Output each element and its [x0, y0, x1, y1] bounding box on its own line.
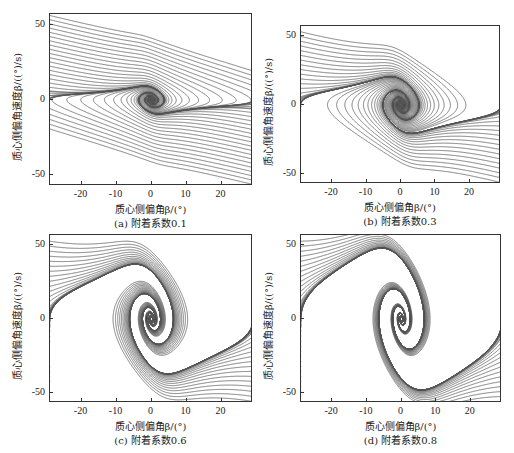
- x-tick-label: 0: [136, 405, 166, 416]
- x-tick-label: 20: [454, 186, 484, 197]
- x-tick-mark: [151, 398, 152, 402]
- plot-area: [49, 13, 252, 185]
- x-tick-label: -10: [101, 405, 131, 416]
- y-tick-label: -50: [270, 386, 296, 397]
- plot-area: [49, 234, 252, 402]
- x-tick-label: 10: [171, 405, 201, 416]
- panel-caption: (d) 附着系数0.8: [300, 432, 501, 447]
- y-tick-mark: [49, 392, 53, 393]
- x-tick-label: 0: [386, 405, 416, 416]
- x-tick-mark: [81, 181, 82, 185]
- x-tick-label: -10: [101, 188, 131, 199]
- x-tick-mark: [331, 398, 332, 402]
- x-tick-mark: [435, 398, 436, 402]
- streamlines: [301, 26, 500, 183]
- x-tick-mark: [366, 179, 367, 183]
- x-tick-label: -20: [316, 405, 346, 416]
- x-tick-mark: [221, 398, 222, 402]
- x-tick-label: -20: [316, 186, 346, 197]
- x-tick-mark: [470, 398, 471, 402]
- x-tick-label: -10: [351, 186, 381, 197]
- streamlines: [50, 235, 252, 402]
- y-tick-label: -50: [270, 167, 296, 178]
- y-axis-label: 质心侧偏角速度β̇/((°)/s): [260, 58, 275, 166]
- x-tick-mark: [434, 179, 435, 183]
- x-tick-mark: [151, 181, 152, 185]
- y-tick-label: 50: [19, 238, 45, 249]
- plot-area: [300, 234, 501, 402]
- y-tick-mark: [49, 24, 53, 25]
- y-tick-label: 50: [19, 18, 45, 29]
- y-tick-label: 50: [270, 238, 296, 249]
- panel-caption: (a) 附着系数0.1: [49, 215, 252, 230]
- plot-area: [300, 25, 500, 183]
- y-tick-mark: [300, 104, 304, 105]
- y-tick-mark: [49, 174, 53, 175]
- y-tick-label: 50: [270, 29, 296, 40]
- x-tick-label: 20: [455, 405, 485, 416]
- x-tick-mark: [116, 398, 117, 402]
- y-tick-mark: [300, 173, 304, 174]
- y-tick-label: -50: [19, 386, 45, 397]
- x-tick-label: -20: [66, 405, 96, 416]
- streamlines: [301, 235, 501, 402]
- x-tick-label: -20: [66, 188, 96, 199]
- x-tick-mark: [186, 398, 187, 402]
- x-tick-mark: [400, 179, 401, 183]
- x-tick-label: 10: [420, 405, 450, 416]
- x-tick-mark: [366, 398, 367, 402]
- y-axis-label: 质心侧偏角速度β̇/((°)/s): [9, 272, 24, 380]
- x-tick-label: 10: [171, 188, 201, 199]
- y-tick-mark: [300, 318, 304, 319]
- x-tick-label: 20: [206, 405, 236, 416]
- x-tick-label: 0: [385, 186, 415, 197]
- y-tick-mark: [49, 99, 53, 100]
- x-tick-mark: [81, 398, 82, 402]
- x-axis-label: 质心侧偏角β/(°): [300, 199, 500, 214]
- x-tick-label: 0: [136, 188, 166, 199]
- x-tick-mark: [116, 181, 117, 185]
- x-tick-label: 20: [206, 188, 236, 199]
- y-tick-mark: [49, 318, 53, 319]
- y-tick-mark: [49, 244, 53, 245]
- x-tick-mark: [331, 179, 332, 183]
- x-tick-label: -10: [351, 405, 381, 416]
- panel-caption: (c) 附着系数0.6: [49, 432, 252, 447]
- panel-caption: (b) 附着系数0.3: [300, 213, 500, 228]
- y-axis-label: 质心侧偏角速度β̇/((°)/s): [260, 272, 275, 380]
- y-axis-label: 质心侧偏角速度β̇/((°)/s): [9, 53, 24, 161]
- y-tick-mark: [300, 244, 304, 245]
- streamlines: [50, 14, 252, 185]
- y-tick-mark: [300, 35, 304, 36]
- y-tick-mark: [300, 392, 304, 393]
- y-tick-label: -50: [19, 168, 45, 179]
- x-axis-label: 质心侧偏角β/(°): [300, 418, 501, 433]
- x-tick-mark: [469, 179, 470, 183]
- x-tick-label: 10: [419, 186, 449, 197]
- x-tick-mark: [221, 181, 222, 185]
- x-axis-label: 质心侧偏角β/(°): [49, 201, 252, 216]
- x-tick-mark: [401, 398, 402, 402]
- x-axis-label: 质心侧偏角β/(°): [49, 418, 252, 433]
- x-tick-mark: [186, 181, 187, 185]
